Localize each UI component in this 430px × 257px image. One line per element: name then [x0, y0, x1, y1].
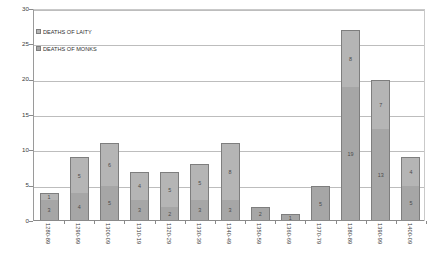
x-axis-label: 1370-79	[314, 223, 324, 257]
x-axis-label-text: 1360-69	[286, 223, 292, 244]
bar-group[interactable]: 2	[251, 207, 270, 221]
bar-value-label: 5	[161, 187, 178, 192]
legend-item[interactable]: DEATHS OF MONKS	[36, 45, 156, 52]
bar-segment-monks[interactable]: 3	[40, 200, 59, 221]
x-axis-tick-mark	[426, 221, 427, 224]
y-axis-tick-label: 0	[3, 218, 29, 224]
bar-group[interactable]: 5	[311, 186, 330, 221]
bar-value-label: 5	[402, 201, 419, 206]
y-axis-tick-label: 5	[3, 182, 29, 188]
bar-value-label: 6	[101, 162, 118, 167]
bar-value-label: 4	[131, 184, 148, 189]
bar-value-label: 19	[342, 151, 359, 156]
x-axis-label-text: 1330-39	[196, 223, 202, 244]
bar-value-label: 2	[161, 211, 178, 216]
chart-legend: DEATHS OF LAITYDEATHS OF MONKS	[36, 28, 156, 62]
y-axis-tick-label: 10	[3, 147, 29, 153]
y-axis-tick-label: 25	[3, 41, 29, 47]
x-axis-label: 1380-89	[345, 223, 355, 257]
x-axis-baseline	[34, 220, 424, 221]
bar-value-label: 4	[402, 170, 419, 175]
bar-segment-laity[interactable]: 4	[130, 172, 149, 200]
x-axis-label: 1340-49	[224, 223, 234, 257]
x-axis-label-text: 1320-29	[166, 223, 172, 244]
bar-segment-laity[interactable]: 1	[40, 193, 59, 200]
bar-segment-monks[interactable]: 3	[190, 200, 209, 221]
bar-value-label: 7	[372, 102, 389, 107]
bar-segment-laity[interactable]: 4	[401, 157, 420, 185]
bar-segment-laity[interactable]: 5	[70, 157, 89, 192]
x-axis-label-text: 1340-49	[226, 223, 232, 244]
bar-value-label: 13	[372, 173, 389, 178]
x-axis-label-text: 1370-79	[316, 223, 322, 244]
bar-value-label: 5	[312, 201, 329, 206]
x-axis-label: 1300-09	[103, 223, 113, 257]
x-axis-label-text: 1350-59	[256, 223, 262, 244]
x-axis-label-text: 1390-99	[377, 223, 383, 244]
bar-segment-laity[interactable]: 5	[160, 172, 179, 207]
bar-group[interactable]: 52	[160, 172, 179, 221]
bar-segment-monks[interactable]: 13	[371, 129, 390, 221]
x-axis-label: 1320-29	[164, 223, 174, 257]
y-axis-tick-label: 15	[3, 112, 29, 118]
bar-value-label: 1	[41, 194, 58, 199]
bar-segment-monks[interactable]: 2	[251, 207, 270, 221]
bar-segment-laity[interactable]: 6	[100, 143, 119, 185]
y-axis-tick-label: 20	[3, 76, 29, 82]
bar-segment-monks[interactable]: 5	[100, 186, 119, 221]
bar-segment-monks[interactable]: 4	[70, 193, 89, 221]
bar-group[interactable]: 65	[100, 143, 119, 221]
bar-value-label: 3	[222, 208, 239, 213]
bar-value-label: 5	[71, 173, 88, 178]
bar-group[interactable]: 54	[70, 157, 89, 221]
y-axis-tick-mark	[29, 221, 33, 222]
x-axis-label: 1390-99	[375, 223, 385, 257]
y-axis-tick-label: 30	[3, 6, 29, 12]
x-axis-label: 1330-39	[194, 223, 204, 257]
bar-value-label: 8	[342, 56, 359, 61]
bar-value-label: 3	[41, 208, 58, 213]
bar-group[interactable]: 53	[190, 164, 209, 221]
legend-item[interactable]: DEATHS OF LAITY	[36, 28, 156, 35]
bar-value-label: 3	[131, 208, 148, 213]
bar-value-label: 8	[222, 170, 239, 175]
legend-swatch-icon	[36, 29, 41, 34]
legend-swatch-icon	[36, 46, 41, 51]
bar-segment-monks[interactable]: 5	[311, 186, 330, 221]
bar-group[interactable]: 83	[221, 143, 240, 221]
bar-value-label: 5	[101, 201, 118, 206]
x-axis-label: 1360-69	[284, 223, 294, 257]
bar-group[interactable]: 45	[401, 157, 420, 221]
bar-group[interactable]: 713	[371, 80, 390, 221]
x-axis-label-text: 1300-09	[105, 223, 111, 244]
bar-segment-monks[interactable]: 19	[341, 87, 360, 221]
bar-segment-laity[interactable]: 8	[221, 143, 240, 200]
bar-value-label: 4	[71, 204, 88, 209]
legend-item-label: DEATHS OF LAITY	[43, 29, 92, 35]
bar-value-label: 5	[191, 180, 208, 185]
legend-item-label: DEATHS OF MONKS	[43, 46, 97, 52]
x-axis-label: 1290-99	[73, 223, 83, 257]
bar-group[interactable]: 819	[341, 30, 360, 221]
x-axis-label: 1400-09	[405, 223, 415, 257]
x-axis-labels: 1280-891290-991300-091310-191320-291330-…	[33, 223, 425, 257]
bar-segment-laity[interactable]: 8	[341, 30, 360, 87]
x-axis-label-text: 1400-09	[407, 223, 413, 244]
bar-group[interactable]: 13	[40, 193, 59, 221]
x-axis-label-text: 1280-89	[45, 223, 51, 244]
bar-segment-laity[interactable]: 7	[371, 80, 390, 129]
bar-segment-monks[interactable]: 3	[221, 200, 240, 221]
bar-segment-monks[interactable]: 2	[160, 207, 179, 221]
chart-container: 051015202530 1354654352538321581971345 1…	[0, 0, 430, 257]
x-axis-label: 1280-89	[43, 223, 53, 257]
bar-segment-monks[interactable]: 5	[401, 186, 420, 221]
x-axis-label-text: 1290-99	[75, 223, 81, 244]
x-axis-label: 1350-59	[254, 223, 264, 257]
bar-segment-monks[interactable]: 3	[130, 200, 149, 221]
x-axis-label-text: 1380-89	[347, 223, 353, 244]
bar-value-label: 2	[252, 212, 269, 217]
x-axis-label-text: 1310-19	[136, 223, 142, 244]
x-axis-label: 1310-19	[134, 223, 144, 257]
bar-group[interactable]: 43	[130, 172, 149, 221]
bar-segment-laity[interactable]: 5	[190, 164, 209, 199]
